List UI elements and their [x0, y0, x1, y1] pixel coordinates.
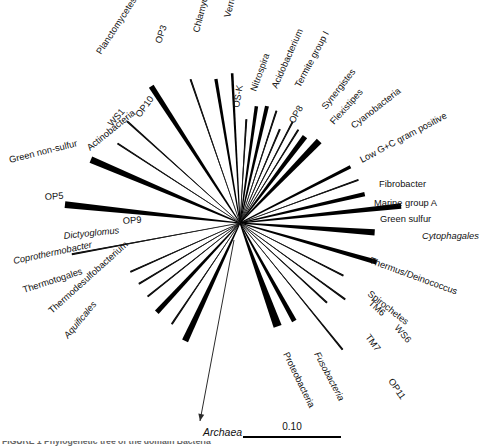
taxon-label-aquificales: Aquificales: [61, 299, 98, 341]
taxon-label-ws6: WS6: [392, 323, 413, 345]
taxon-label-cytophagales: Cytophagales: [422, 231, 479, 241]
taxon-label-proteobacteria: Proteobacteria: [281, 350, 317, 409]
taxon-label-low-g-c-gram-positive: Low G+C gram positive: [358, 110, 448, 164]
taxon-label-fibrobacter: Fibrobacter: [379, 179, 426, 189]
tree-canvas: PlanctomycetesOP3ChlamydiaVerrucomicrobi…: [0, 0, 502, 447]
taxon-label-marine-group-a: Marine group A: [374, 198, 438, 208]
taxon-label-chlamydia: Chlamydia: [191, 0, 212, 33]
taxon-label-tm7: TM7: [363, 332, 382, 353]
taxon-label-green-non-sulfur: Green non-sulfur: [8, 138, 78, 165]
archaea-arrowhead: [198, 414, 204, 421]
taxon-label-fusobacteria: Fusobacteria: [312, 350, 346, 402]
taxon-label-planctomycetes: Planctomycetes: [94, 0, 138, 56]
taxon-label-nitrospira: Nitrospira: [248, 51, 271, 93]
phylogenetic-tree-figure: PlanctomycetesOP3ChlamydiaVerrucomicrobi…: [0, 0, 502, 447]
figure-caption: FIGURE 1 Phylogenetic tree of the domain…: [2, 441, 211, 446]
tree-branch-stroke: [148, 223, 240, 296]
taxon-label-op9: OP9: [122, 215, 141, 226]
tree-branch-wedge: [240, 139, 322, 224]
taxon-label-op3: OP3: [153, 24, 168, 45]
tree-branch-wedge: [240, 223, 282, 328]
taxon-label-op5: OP5: [44, 191, 63, 202]
scale-bar-label: 0.10: [282, 421, 302, 432]
taxon-label-op11: OP11: [386, 377, 407, 402]
scale-bar: 0.10: [243, 421, 341, 437]
taxon-label-verrucomicrobia: Verrucomicrobia: [222, 0, 248, 18]
archaea-outgroup: [198, 240, 234, 421]
taxon-label-dictyoglomus: Dictyoglomus: [63, 225, 120, 241]
taxon-label-op8: OP8: [287, 104, 305, 125]
taxon-label-actinobacteria: Actinobacteria: [85, 107, 138, 152]
archaea-label: Archaea: [202, 426, 242, 438]
taxon-label-op10: OP10: [134, 94, 156, 119]
taxon-label-green-sulfur: Green sulfur: [380, 214, 431, 224]
archaea-branch-line: [200, 240, 234, 421]
taxon-label-thermus-deinococcus: Thermus/Deinococcus: [368, 255, 459, 296]
figure-caption-strip: FIGURE 1 Phylogenetic tree of the domain…: [0, 441, 502, 447]
